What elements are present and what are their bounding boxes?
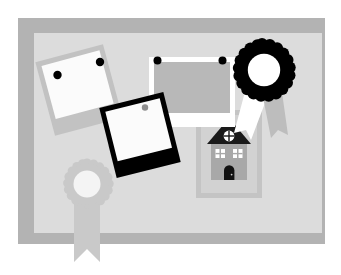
pushpin-icon-black-top	[142, 104, 148, 110]
house-window-left-mullion-h	[216, 153, 226, 154]
house-door-knob	[231, 174, 233, 176]
house-attic-window-mullion-h	[224, 135, 235, 136]
pushpin-icon-white-left	[154, 57, 162, 65]
pushpin-icon-white-right	[219, 57, 227, 65]
pushpin-icon-gray-left	[53, 71, 61, 79]
house-window-right-mullion-h	[233, 153, 243, 154]
memory-board-illustration: Memory board with photos, award rosettes…	[0, 0, 341, 275]
rosette-gray-center	[74, 171, 101, 198]
pushpin-icon-gray-right	[96, 58, 104, 66]
house-door	[224, 165, 234, 180]
illustration-canvas: Memory board with photos, award rosettes…	[0, 0, 341, 275]
rosette-black-center	[248, 54, 280, 86]
